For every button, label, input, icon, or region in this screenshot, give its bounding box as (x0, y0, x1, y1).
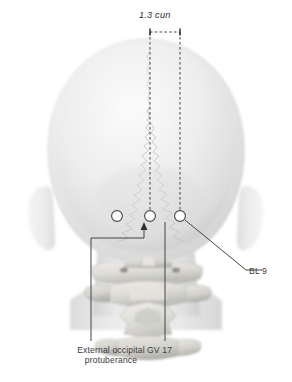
anatomy-illustration (0, 0, 292, 382)
label-bl9: BL 9 (249, 266, 267, 276)
acupoint-gv17 (145, 211, 156, 222)
ear-right (237, 186, 264, 251)
label-gv17: GV 17 (147, 345, 172, 355)
dimension-label: 1.3 cun (139, 10, 171, 20)
ear-left (28, 186, 55, 251)
diagram-canvas: 1.3 cun External occipital protuberance … (0, 0, 292, 382)
acupoint-bl9-left (112, 211, 123, 222)
acupoint-bl9-right (175, 211, 186, 222)
